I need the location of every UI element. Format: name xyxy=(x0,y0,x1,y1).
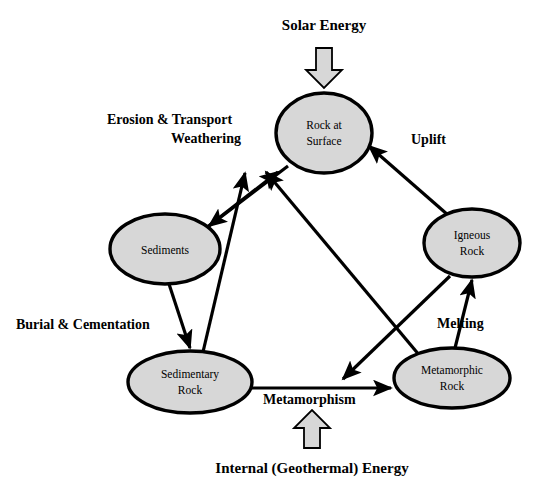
node-metamorphic-rock-label-line2: Rock xyxy=(440,380,465,392)
edge-sediments-to-sedimentary xyxy=(169,284,190,348)
node-igneous-rock[interactable]: Igneous Rock xyxy=(424,209,520,277)
node-metamorphic-rock-label-line1: Metamorphic xyxy=(421,364,483,377)
edge-label-uplift: Uplift xyxy=(411,132,446,147)
node-rock-at-surface-shape xyxy=(276,93,372,173)
internal-geothermal-energy-block-arrow-icon xyxy=(294,410,330,448)
solar-energy-block-arrow-icon xyxy=(306,48,342,88)
edge-label-erosion-line1: Erosion & Transport xyxy=(107,112,233,127)
solar-energy-label: Solar Energy xyxy=(282,17,367,33)
edge-label-burial-cementation: Burial & Cementation xyxy=(16,317,150,332)
node-rock-at-surface-label-line2: Surface xyxy=(306,135,341,147)
node-rock-at-surface[interactable]: Rock at Surface xyxy=(276,93,372,173)
node-sedimentary-rock-label-line1: Sedimentary xyxy=(161,368,219,381)
node-sedimentary-rock[interactable]: Sedimentary Rock xyxy=(128,351,252,413)
node-igneous-rock-label-line2: Rock xyxy=(460,245,485,257)
node-sediments[interactable]: Sediments xyxy=(110,214,220,284)
diagram-canvas: Solar Energy Rock at Surface S xyxy=(0,0,546,487)
node-sedimentary-rock-shape xyxy=(128,351,252,413)
edge-label-melting: Melting xyxy=(437,316,484,331)
node-igneous-rock-shape xyxy=(424,209,520,277)
node-igneous-rock-label-line1: Igneous xyxy=(454,229,491,242)
edge-label-erosion-line2: Weathering xyxy=(171,131,241,146)
edge-igneous-to-surface xyxy=(369,146,448,215)
node-sediments-label: Sediments xyxy=(141,244,189,256)
edge-metamorphic-to-igneous xyxy=(455,280,472,348)
edge-label-metamorphism: Metamorphism xyxy=(263,392,356,407)
node-sedimentary-rock-label-line2: Rock xyxy=(178,384,203,396)
node-metamorphic-rock-shape xyxy=(394,348,510,408)
node-rock-at-surface-label-line1: Rock at xyxy=(306,119,342,131)
node-metamorphic-rock[interactable]: Metamorphic Rock xyxy=(394,348,510,408)
rock-cycle-diagram: Solar Energy Rock at Surface S xyxy=(0,0,546,487)
internal-geothermal-energy-label: Internal (Geothermal) Energy xyxy=(215,460,409,477)
